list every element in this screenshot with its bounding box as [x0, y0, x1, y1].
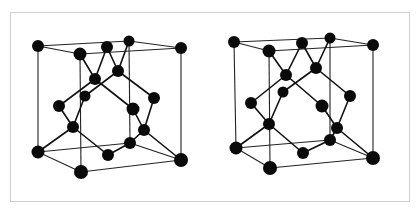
- atomic-bond: [144, 130, 181, 160]
- carbon-atom: [310, 62, 322, 74]
- carbon-atom: [230, 142, 243, 155]
- carbon-atom: [80, 91, 91, 102]
- carbon-atom: [280, 69, 292, 81]
- carbon-atom: [174, 153, 188, 167]
- carbon-atom: [325, 33, 336, 44]
- carbon-atom: [148, 92, 160, 104]
- carbon-atom: [74, 48, 87, 61]
- carbon-atom: [138, 124, 150, 136]
- carbon-atom: [316, 100, 329, 113]
- diamond-lattice-stereo-diagram: [0, 0, 418, 215]
- atomic-bond: [73, 127, 108, 155]
- carbon-atom: [263, 118, 275, 130]
- atomic-bond: [316, 68, 350, 96]
- carbon-atom: [331, 122, 343, 134]
- carbon-atom: [228, 36, 240, 48]
- cell-edge: [269, 45, 373, 51]
- cell-edge: [270, 158, 373, 168]
- carbon-atom: [278, 87, 289, 98]
- carbon-atom: [127, 103, 140, 116]
- carbon-atom: [112, 65, 124, 77]
- carbon-atom: [53, 100, 65, 112]
- cell-edge: [38, 152, 81, 172]
- cell-edge: [80, 54, 81, 172]
- carbon-atom: [102, 149, 114, 161]
- carbon-atom: [124, 137, 136, 149]
- carbon-atom: [366, 151, 380, 165]
- carbon-atom: [344, 90, 356, 102]
- cell-edge: [80, 48, 181, 54]
- carbon-atom: [124, 36, 135, 47]
- carbon-atom: [175, 42, 187, 54]
- carbon-atom: [296, 37, 308, 49]
- carbon-atom: [89, 73, 101, 85]
- carbon-atom: [32, 40, 44, 52]
- cell-edge: [81, 160, 181, 172]
- atomic-bond: [337, 128, 373, 158]
- atomic-bond: [286, 75, 322, 106]
- unit-cell-right: [228, 33, 380, 176]
- cell-edge: [129, 41, 130, 143]
- cell-edge: [129, 41, 181, 48]
- carbon-atom: [67, 121, 79, 133]
- carbon-atom: [367, 39, 379, 51]
- carbon-atom: [245, 97, 257, 109]
- cell-edge: [330, 38, 373, 45]
- carbon-atom: [263, 45, 276, 58]
- cell-edge: [130, 143, 181, 160]
- cell-edge: [234, 42, 236, 148]
- cell-edge: [38, 41, 129, 46]
- atomic-bond: [95, 79, 133, 109]
- unit-cell-left: [32, 36, 189, 180]
- cell-edge: [234, 38, 330, 42]
- carbon-atom: [32, 146, 45, 159]
- cell-edge: [269, 51, 270, 168]
- carbon-atom: [263, 161, 277, 175]
- carbon-atom: [74, 165, 88, 179]
- carbon-atom: [297, 147, 309, 159]
- carbon-atom: [324, 134, 336, 146]
- atomic-bond: [269, 124, 303, 153]
- carbon-atom: [101, 41, 113, 53]
- atomic-bond: [118, 71, 154, 98]
